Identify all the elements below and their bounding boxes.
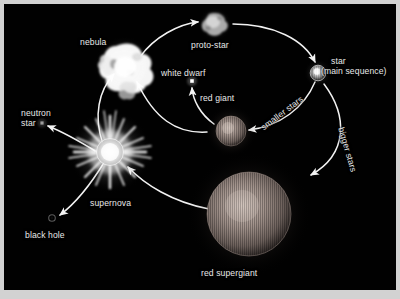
- label-red-supergiant: red supergiant: [201, 268, 257, 278]
- label-nebula: nebula: [80, 37, 106, 47]
- black-hole-object: [49, 215, 56, 222]
- neutron-star-object: [38, 119, 47, 128]
- red-supergiant-object: [187, 152, 311, 276]
- label-neutron-star-line1: neutron: [21, 108, 51, 118]
- supernova-object: [68, 110, 152, 194]
- red-giant-object: [205, 105, 257, 157]
- arrow-redgiant-to-nebula: [137, 82, 207, 132]
- label-supernova: supernova: [90, 198, 131, 208]
- diagram-canvas: nebula proto-star star (main sequence) w…: [4, 4, 396, 290]
- label-neutron-star-line2: star: [21, 118, 36, 128]
- arrow-protostar-to-star: [233, 24, 315, 62]
- label-red-giant: red giant: [200, 93, 234, 103]
- label-star-sequence: (main sequence): [321, 66, 387, 76]
- label-black-hole: black hole: [25, 230, 65, 240]
- protostar-object: [198, 7, 232, 41]
- star-lifecycle-diagram: nebula proto-star star (main sequence) w…: [0, 0, 400, 299]
- label-star-main: star: [331, 56, 346, 66]
- label-white-dwarf: white dwarf: [161, 68, 206, 78]
- label-proto-star: proto-star: [191, 40, 229, 50]
